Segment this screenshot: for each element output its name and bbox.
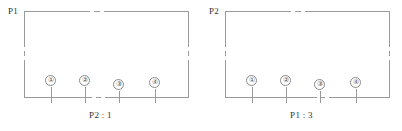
panel-corner-label-p1: P1 bbox=[8, 6, 18, 17]
frame-bottom-edge-break-tick bbox=[321, 97, 325, 98]
frame-right-edge-segment-top bbox=[389, 11, 390, 47]
callout-leader-stem bbox=[286, 87, 287, 103]
panel-frame-p2: ① ② ③ ④ bbox=[225, 11, 390, 98]
frame-right-edge-break-tick bbox=[188, 51, 189, 56]
frame-left-edge-break-tick bbox=[225, 51, 226, 56]
callout-bubble-label: ③ bbox=[314, 79, 325, 90]
panel-caption-p2: P1 : 3 bbox=[201, 109, 402, 121]
frame-bottom-edge-segment-left bbox=[24, 97, 92, 98]
callout-bubble-label: ② bbox=[79, 75, 90, 86]
frame-top-edge-break-tick bbox=[94, 11, 100, 12]
frame-top-edge-segment-left bbox=[24, 11, 90, 12]
frame-right-edge-break-tick bbox=[389, 51, 390, 56]
frame-right-edge-segment-bottom bbox=[389, 60, 390, 98]
diagram-panel-p1: P1 ① ② bbox=[0, 0, 201, 131]
frame-left-edge-segment-bottom bbox=[24, 60, 25, 98]
frame-left-edge-segment-top bbox=[24, 11, 25, 47]
panel-caption-p1: P2 : 1 bbox=[0, 109, 201, 121]
callout-bubble-label: ④ bbox=[350, 77, 361, 88]
frame-bottom-edge-segment-right bbox=[329, 97, 390, 98]
frame-top-edge-segment-right bbox=[104, 11, 189, 12]
callout-bubble-label: ② bbox=[280, 75, 291, 86]
callout-leader-stem bbox=[119, 91, 120, 103]
drawing-sheet: P1 ① ② bbox=[0, 0, 402, 131]
panel-corner-label-p2: P2 bbox=[209, 6, 219, 17]
panel-frame-p1: ① ② ③ ④ bbox=[24, 11, 189, 98]
callout-bubble-label: ① bbox=[246, 75, 257, 86]
callout-bubble-label: ① bbox=[45, 75, 56, 86]
frame-top-edge-break-tick bbox=[295, 11, 301, 12]
frame-top-edge-segment-right bbox=[305, 11, 390, 12]
callout-leader-stem bbox=[155, 89, 156, 103]
frame-bottom-edge-segment-left bbox=[225, 97, 317, 98]
frame-bottom-edge-break-tick bbox=[96, 97, 101, 98]
callout-leader-stem bbox=[51, 87, 52, 103]
frame-top-edge-segment-left bbox=[225, 11, 291, 12]
frame-right-edge-segment-top bbox=[188, 11, 189, 47]
frame-left-edge-break-tick bbox=[24, 51, 25, 56]
frame-right-edge-segment-bottom bbox=[188, 60, 189, 98]
callout-leader-stem bbox=[356, 89, 357, 103]
callout-leader-stem bbox=[252, 87, 253, 103]
diagram-panel-p2: P2 ① ② ③ bbox=[201, 0, 402, 131]
callout-bubble-label: ③ bbox=[113, 79, 124, 90]
callout-leader-stem bbox=[85, 87, 86, 103]
frame-left-edge-segment-bottom bbox=[225, 60, 226, 98]
callout-bubble-label: ④ bbox=[149, 77, 160, 88]
frame-bottom-edge-segment-right bbox=[105, 97, 189, 98]
callout-leader-stem bbox=[320, 91, 321, 103]
frame-left-edge-segment-top bbox=[225, 11, 226, 47]
